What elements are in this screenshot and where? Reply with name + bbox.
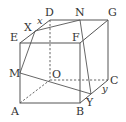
edge-A-O [20,80,50,103]
label-Y: Y [85,96,94,109]
label-D: D [45,6,54,19]
cube-diagram: D N G X x E F M O C y Y A B [0,0,126,122]
line-N-Y [80,20,91,94]
label-E: E [10,31,18,44]
cube-svg: D N G X x E F M O C y Y A B [0,0,126,122]
label-N: N [75,6,85,19]
label-O: O [52,68,61,81]
label-M: M [9,67,20,80]
label-G: G [108,6,117,19]
label-A: A [10,105,20,118]
label-var-x: x [37,15,43,26]
label-X: X [24,21,32,34]
label-F: F [72,31,80,44]
label-C: C [110,74,118,87]
edge-G-F [80,20,108,43]
label-B: B [76,105,84,118]
label-var-y: y [101,83,108,94]
